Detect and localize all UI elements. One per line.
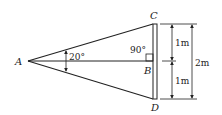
- label-dim-total: 2m: [195, 58, 210, 68]
- label-dim-lower: 1m: [175, 76, 190, 86]
- right-angle-marker: [146, 54, 153, 61]
- label-b: B: [143, 65, 151, 76]
- bar-cd: [153, 24, 157, 99]
- label-angle-90: 90°: [130, 45, 146, 55]
- side-ac: [28, 24, 153, 61]
- label-c: C: [150, 10, 158, 21]
- label-d: D: [150, 102, 159, 113]
- label-a: A: [14, 56, 22, 67]
- triangle-diagram: A B C D 20° 90° 1m 1m 2m: [0, 0, 222, 115]
- side-ad: [28, 61, 153, 99]
- label-angle-20: 20°: [69, 52, 85, 62]
- label-dim-upper: 1m: [175, 38, 190, 48]
